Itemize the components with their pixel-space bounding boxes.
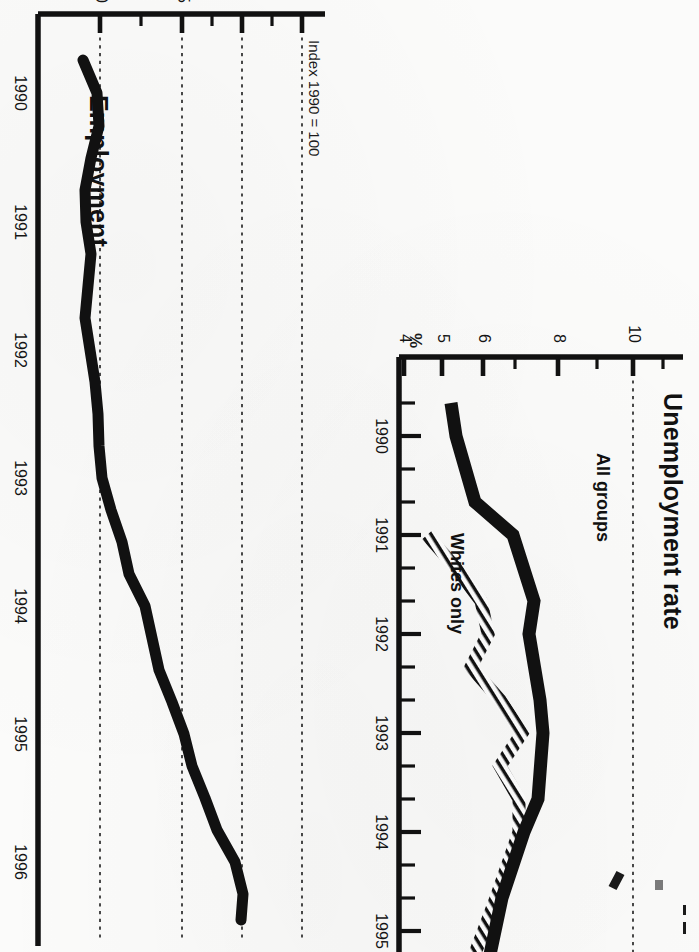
employment-xtick-1990: 1990 — [11, 63, 29, 123]
unemployment-y-axis — [399, 357, 683, 376]
unemployment-ytick-8: 8 — [550, 285, 568, 343]
employment-xtick-1991: 1991 — [11, 192, 29, 252]
employment-y-axis — [38, 14, 325, 33]
scanned-page: Employment Index 1990 = 100 105 100 1990… — [0, 0, 699, 952]
series-label-all-groups: All groups — [592, 453, 613, 542]
unemployment-xtick-1993: 1993 — [372, 703, 390, 763]
employment-plot-area — [0, 0, 341, 952]
unemployment-xtick-1994: 1994 — [372, 802, 390, 862]
unemployment-ytick-4: 4 — [396, 285, 414, 343]
next-chart-fragment-tick-2 — [683, 922, 686, 934]
unemployment-xtick-1991: 1991 — [372, 505, 390, 565]
employment-xtick-1996: 1996 — [11, 832, 29, 892]
unemployment-xtick-1995: 1995 — [372, 901, 390, 952]
employment-xtick-1995: 1995 — [11, 704, 29, 764]
unemployment-xtick-1992: 1992 — [372, 604, 390, 664]
employment-xtick-1992: 1992 — [11, 320, 29, 380]
unemployment-plot-area — [341, 341, 699, 952]
unemployment-ytick-5: 5 — [434, 285, 452, 343]
unemployment-ytick-6: 6 — [475, 285, 493, 343]
unemployment-all-groups-line — [451, 403, 543, 952]
employment-index-note: Index 1990 = 100 — [306, 40, 323, 156]
unemployment-chart: Unemployment rate % All groups Whites on… — [341, 341, 699, 952]
employment-title: Employment — [84, 95, 113, 247]
employment-ytick-100: 100 — [92, 0, 110, 3]
unemployment-title: Unemployment rate — [658, 393, 687, 630]
employment-ytick-105: 105 — [174, 0, 192, 3]
unemployment-x-axis — [399, 357, 421, 952]
series-label-whites-only: Whites only — [446, 533, 467, 634]
unemployment-xtick-1990: 1990 — [372, 406, 390, 466]
unemployment-ytick-10: 10 — [625, 285, 643, 343]
next-chart-fragment-tick — [683, 905, 686, 915]
employment-chart: Employment Index 1990 = 100 105 100 1990… — [0, 0, 341, 952]
next-chart-fragment-hatch — [655, 880, 663, 890]
employment-xtick-1993: 1993 — [11, 448, 29, 508]
employment-xtick-1994: 1994 — [11, 576, 29, 636]
